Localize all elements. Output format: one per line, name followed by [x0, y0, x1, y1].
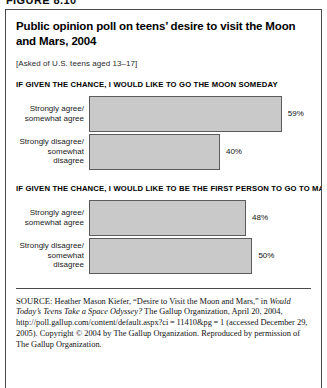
- category-line: Strongly agree/: [16, 208, 84, 218]
- chart-1-category-0: Strongly agree/ somewhat agree: [16, 96, 89, 132]
- category-line: Strongly disagree/: [16, 137, 84, 147]
- chart-1-value-1: 40%: [226, 147, 242, 156]
- chart-1-row-1: Strongly disagree/ somewhat disagree 40%: [16, 134, 311, 170]
- chart-1-heading: IF GIVEN THE CHANCE, I WOULD LIKE TO GO …: [16, 80, 311, 89]
- chart-2-track-1: 50%: [90, 238, 311, 274]
- chart-1-row-0: Strongly agree/ somewhat agree 59%: [16, 96, 311, 132]
- figure-label: FIGURE 8.10: [6, 0, 76, 6]
- figure-body: Public opinion poll on teens’ desire to …: [6, 10, 321, 274]
- chart-2: Strongly agree/ somewhat agree 48% Stron…: [16, 200, 311, 274]
- chart-2-value-1: 50%: [258, 251, 274, 260]
- category-line: somewhat disagree: [16, 147, 84, 167]
- chart-2-value-0: 48%: [252, 213, 268, 222]
- category-line: Strongly disagree/: [16, 241, 84, 251]
- category-line: Strongly agree/: [16, 104, 84, 114]
- category-line: somewhat disagree: [16, 251, 84, 271]
- chart-1: Strongly agree/ somewhat agree 59% Stron…: [16, 96, 311, 170]
- chart-2-bar-1: [90, 238, 252, 274]
- page-title: Public opinion poll on teens’ desire to …: [16, 19, 311, 50]
- chart-1-track-0: 59%: [90, 96, 311, 132]
- chart-1-value-0: 59%: [288, 109, 304, 118]
- source-label: SOURCE:: [16, 296, 52, 306]
- chart-1-category-1: Strongly disagree/ somewhat disagree: [16, 134, 89, 170]
- source-text-1: Heather Mason Kiefer, “Desire to Visit t…: [52, 297, 269, 306]
- chart-2-category-1: Strongly disagree/ somewhat disagree: [16, 238, 89, 274]
- figure-page: FIGURE 8.10 Public opinion poll on teens…: [0, 0, 327, 388]
- figure-frame: Public opinion poll on teens’ desire to …: [5, 9, 322, 388]
- chart-1-track-1: 40%: [90, 134, 311, 170]
- chart-2-row-1: Strongly disagree/ somewhat disagree 50%: [16, 238, 311, 274]
- chart-2-category-0: Strongly agree/ somewhat agree: [16, 200, 89, 236]
- category-line: somewhat agree: [16, 218, 84, 228]
- chart-2-heading: IF GIVEN THE CHANCE, I WOULD LIKE TO BE …: [16, 184, 311, 193]
- source-citation: SOURCE: Heather Mason Kiefer, “Desire to…: [16, 288, 311, 351]
- chart-1-bar-1: [90, 134, 220, 170]
- chart-2-bar-0: [90, 200, 246, 236]
- chart-2-track-0: 48%: [90, 200, 311, 236]
- category-line: somewhat agree: [16, 114, 84, 124]
- chart-2-row-0: Strongly agree/ somewhat agree 48%: [16, 200, 311, 236]
- figure-subtitle: [Asked of U.S. teens aged 13–17]: [16, 59, 311, 68]
- chart-1-bar-0: [90, 96, 282, 132]
